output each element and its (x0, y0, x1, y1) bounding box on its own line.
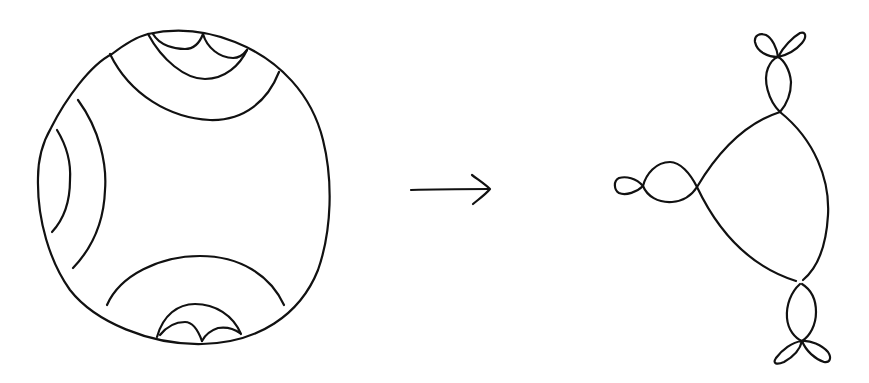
left-small-loop (615, 177, 643, 194)
left-outer-arc (73, 100, 105, 268)
bottom-lens-loop (787, 284, 816, 341)
top-lens-loop (766, 57, 791, 112)
left-disk-figure (38, 31, 330, 344)
central-loop-lower-left-edge (697, 187, 796, 281)
right-loop-graph (615, 33, 830, 364)
left-lens-loop (643, 162, 697, 202)
maps-to-arrow (411, 175, 490, 204)
bottom-left-petal (775, 341, 802, 364)
disk-boundary (38, 31, 330, 344)
bottom-outer-arc (107, 256, 284, 305)
central-loop-upper-left-edge (697, 112, 780, 187)
top-left-petal (755, 34, 778, 57)
bottom-inner-arc-left (160, 322, 202, 341)
bottom-right-petal (802, 341, 830, 362)
central-loop-right-edge (780, 112, 828, 280)
top-inner-arc-left (153, 34, 203, 49)
arrow-shaft (411, 189, 489, 190)
left-inner-arc (52, 130, 70, 232)
diagram-canvas (0, 0, 869, 383)
top-right-petal (778, 33, 805, 57)
bottom-inner-arc-right (202, 328, 240, 341)
top-outer-arc (110, 54, 279, 120)
